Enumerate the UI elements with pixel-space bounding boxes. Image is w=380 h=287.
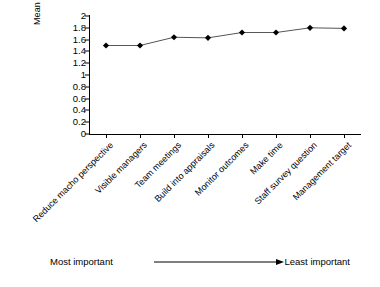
y-axis-tick-mark [85, 51, 89, 52]
x-axis-tick-mark [208, 134, 209, 138]
x-axis-tick-mark [310, 134, 311, 138]
x-axis-tick-mark [174, 134, 175, 138]
data-series-line [89, 16, 361, 134]
x-axis-tick-mark [276, 134, 277, 138]
data-point-marker [103, 42, 109, 48]
least-important-label: Least important [285, 255, 350, 269]
y-axis-title: Mean score [30, 0, 44, 56]
x-axis-tick-mark [106, 134, 107, 138]
y-axis-tick-mark [85, 122, 89, 123]
y-axis-tick-mark [85, 134, 89, 135]
x-axis-line [89, 134, 361, 135]
y-axis-tick-mark [85, 63, 89, 64]
most-important-label: Most important [50, 255, 113, 269]
y-axis-tick-mark [85, 86, 89, 87]
x-axis-tick-mark [242, 134, 243, 138]
chart-container: Mean score 00.20.40.60.811.21.41.61.82Re… [0, 0, 380, 287]
y-axis-tick-mark [85, 27, 89, 28]
x-axis-tick-label: Build into appraisals [153, 140, 217, 204]
series-polyline [106, 28, 344, 46]
x-axis-tick-mark [344, 134, 345, 138]
y-axis-tick-mark [85, 39, 89, 40]
data-point-marker [307, 25, 313, 31]
x-axis-tick-mark [140, 134, 141, 138]
x-axis-tick-label: Staff survey question [253, 140, 319, 206]
data-point-marker [273, 29, 279, 35]
data-point-marker [341, 25, 347, 31]
y-axis-tick-mark [85, 16, 89, 17]
y-axis-tick-mark [85, 75, 89, 76]
data-point-marker [137, 42, 143, 48]
data-point-marker [239, 29, 245, 35]
y-axis-tick-mark [85, 110, 89, 111]
importance-annotation: Most important Least important [40, 255, 350, 275]
x-axis-tick-label: Management target [291, 140, 353, 202]
plot-area: 00.20.40.60.811.21.41.61.82Reduce macho … [89, 16, 361, 134]
right-arrow-icon [154, 256, 284, 268]
data-point-marker [205, 35, 211, 41]
y-axis-tick-mark [85, 98, 89, 99]
data-point-marker [171, 34, 177, 40]
